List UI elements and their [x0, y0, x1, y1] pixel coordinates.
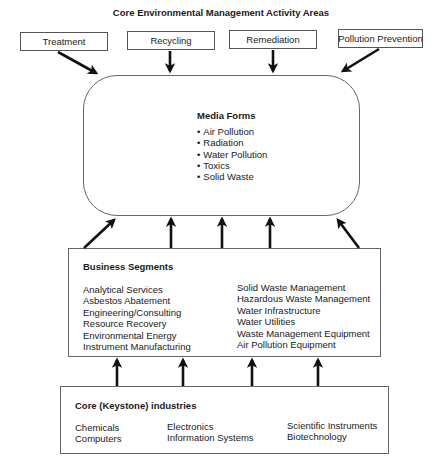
arrow-segments-to-media — [84, 220, 114, 248]
arrow-treatment-to-media — [58, 52, 96, 73]
arrow-pollution-prevention-to-media — [343, 49, 379, 71]
arrow-segments-to-media — [338, 220, 359, 248]
connector-arrows — [0, 0, 442, 464]
